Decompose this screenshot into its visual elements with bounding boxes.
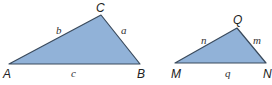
triangles-diagram: A B C a b c M N Q m n q — [0, 0, 272, 85]
side-label-c: c — [71, 67, 76, 79]
side-label-a: a — [121, 24, 127, 36]
side-label-b: b — [56, 24, 62, 36]
vertex-label-n: N — [263, 67, 272, 81]
side-label-m: m — [253, 34, 261, 46]
side-label-q: q — [225, 67, 231, 79]
triangle-abc — [9, 15, 140, 64]
vertex-label-c: C — [96, 1, 105, 15]
vertex-label-m: M — [171, 67, 181, 81]
vertex-label-q: Q — [233, 13, 242, 27]
side-label-n: n — [201, 34, 207, 46]
vertex-label-a: A — [2, 67, 11, 81]
vertex-label-b: B — [137, 67, 145, 81]
